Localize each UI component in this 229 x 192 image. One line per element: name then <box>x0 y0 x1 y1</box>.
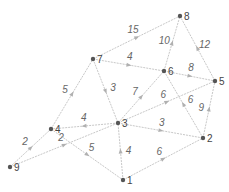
edge-weight-label: 5 <box>62 84 68 95</box>
arrow-icon <box>164 99 170 105</box>
arrow-icon <box>118 148 122 153</box>
edge-weight-label: 4 <box>126 145 132 156</box>
edge-weight-label: 4 <box>81 112 87 123</box>
node-dot <box>91 57 95 61</box>
edge-3-2: 3 <box>118 117 203 138</box>
edge-4-7: 5 <box>51 59 93 129</box>
edge-weight-label: 4 <box>127 51 133 62</box>
edge-weight-label: 12 <box>199 39 211 50</box>
node-label: 1 <box>127 175 133 186</box>
edge-weight-label: 8 <box>188 62 194 73</box>
arrow-icon <box>103 88 109 94</box>
node-9: 9 <box>8 162 20 173</box>
node-dot <box>49 127 53 131</box>
node-dot <box>116 121 120 125</box>
node-label: 7 <box>97 54 103 65</box>
node-dot <box>8 165 12 169</box>
edge-weight-label: 7 <box>132 86 138 97</box>
arrow-icon <box>126 63 132 68</box>
node-5: 5 <box>213 76 225 87</box>
edge-1-3: 4 <box>118 123 132 180</box>
arrow-icon <box>81 124 86 128</box>
node-label: 6 <box>168 66 174 77</box>
node-3: 3 <box>116 118 128 129</box>
edge-4-1: 5 <box>51 129 123 180</box>
node-dot <box>162 69 166 73</box>
arrow-icon <box>180 101 186 107</box>
edge-weight-label: 9 <box>198 102 204 113</box>
arrow-icon <box>61 142 67 148</box>
edge-5-8: 12 <box>180 16 215 81</box>
arrow-icon <box>138 93 144 99</box>
node-dot <box>121 178 125 182</box>
node-7: 7 <box>91 54 103 65</box>
edge-weight-label: 15 <box>127 24 139 35</box>
node-4: 4 <box>49 124 61 135</box>
edge-weight-label: 6 <box>161 89 167 100</box>
edge-weight-label: 10 <box>159 35 171 46</box>
arrow-icon <box>170 40 175 46</box>
node-dot <box>213 79 217 83</box>
edge-weight-label: 5 <box>89 142 95 153</box>
edge-weight-label: 3 <box>159 117 165 128</box>
graph-diagram: 151012483766935422546 123456789 <box>0 0 229 192</box>
node-label: 3 <box>122 118 128 129</box>
node-2: 2 <box>201 133 213 144</box>
node-label: 4 <box>55 124 61 135</box>
node-label: 9 <box>14 162 20 173</box>
node-6: 6 <box>162 66 174 77</box>
node-8: 8 <box>178 11 190 22</box>
arrow-icon <box>69 90 75 96</box>
edge-weight-label: 6 <box>157 146 163 157</box>
edge-1-2: 6 <box>123 138 203 180</box>
edge-weight-label: 3 <box>110 82 116 93</box>
edge-6-8: 10 <box>159 16 180 71</box>
edge-7-3: 3 <box>93 59 118 123</box>
edge-weight-label: 2 <box>21 136 28 147</box>
edge-weight-label: 6 <box>188 94 194 105</box>
edge-3-4: 4 <box>51 112 118 129</box>
edges-layer: 151012483766935422546 <box>10 16 215 180</box>
node-dot <box>201 136 205 140</box>
edge-2-5: 9 <box>198 81 215 138</box>
edge-2-6: 6 <box>164 71 203 138</box>
node-dot <box>178 14 182 18</box>
node-label: 2 <box>207 133 213 144</box>
node-label: 8 <box>184 11 190 22</box>
node-label: 5 <box>219 76 225 87</box>
edge-7-6: 4 <box>93 51 164 71</box>
edge-3-6: 7 <box>118 71 164 123</box>
